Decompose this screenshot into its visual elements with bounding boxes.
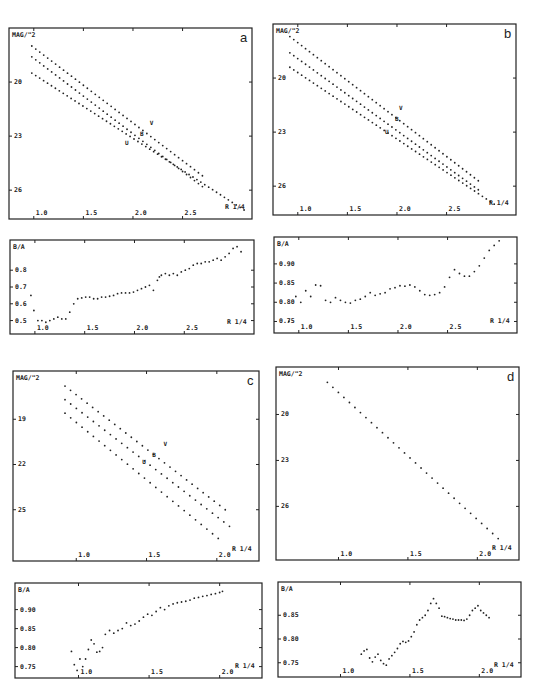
data-point	[189, 599, 191, 601]
data-point	[455, 619, 457, 621]
data-point	[200, 263, 202, 265]
data-point	[480, 610, 482, 612]
data-point	[464, 275, 466, 277]
data-point	[477, 180, 479, 182]
series-V	[289, 66, 495, 205]
data-point	[216, 191, 218, 193]
data-point	[493, 203, 495, 205]
data-point	[426, 141, 428, 143]
data-point	[39, 77, 41, 79]
data-point	[371, 422, 373, 424]
data-point	[82, 666, 84, 668]
data-point	[243, 209, 245, 211]
data-point	[453, 497, 455, 499]
data-point	[126, 118, 128, 120]
data-point	[343, 397, 345, 399]
data-point	[35, 59, 37, 61]
figure-canvas: 1.01.52.02.5202326MAG/"2R 1/4aVBU1.01.52…	[0, 0, 546, 686]
data-point	[384, 292, 386, 294]
data-point	[176, 602, 178, 604]
data-point	[191, 483, 193, 485]
data-point	[472, 610, 474, 612]
data-point	[348, 106, 350, 108]
data-point	[369, 657, 371, 659]
data-point	[442, 169, 444, 171]
data-point	[75, 407, 77, 409]
data-point	[104, 429, 106, 431]
data-point	[81, 398, 83, 400]
data-point	[180, 169, 182, 171]
data-point	[409, 284, 411, 286]
data-point	[438, 607, 440, 609]
data-point	[153, 151, 155, 153]
data-point	[399, 132, 401, 134]
data-point	[130, 131, 132, 133]
data-point	[134, 124, 136, 126]
data-point	[435, 602, 437, 604]
data-point	[154, 139, 156, 141]
data-point	[422, 617, 424, 619]
chart-b-ellipticity: 1.01.52.02.50.750.800.850.90B/AR 1/4	[274, 237, 517, 333]
data-point	[332, 386, 334, 388]
data-point	[149, 464, 151, 466]
data-point	[459, 502, 461, 504]
data-point	[172, 163, 174, 165]
data-point	[371, 99, 373, 101]
data-point	[391, 655, 393, 657]
data-point	[450, 159, 452, 161]
data-point	[35, 75, 37, 77]
data-point	[188, 174, 190, 176]
data-point	[470, 174, 472, 176]
y-tick-label: 26	[281, 502, 289, 510]
data-point	[147, 613, 149, 615]
data-point	[81, 426, 83, 428]
data-point	[73, 303, 75, 305]
band-label-B: B	[395, 115, 399, 122]
data-point	[86, 98, 88, 100]
data-point	[413, 631, 415, 633]
data-point	[463, 620, 465, 622]
data-point	[102, 647, 104, 649]
data-point	[47, 57, 49, 59]
data-point	[345, 301, 347, 303]
data-point	[228, 253, 230, 255]
data-point	[293, 69, 295, 71]
data-point	[170, 151, 172, 153]
x-tick-label: 1.5	[412, 667, 424, 675]
data-point	[371, 112, 373, 114]
band-label-V: V	[163, 440, 167, 447]
data-point	[300, 301, 302, 303]
data-point	[172, 603, 174, 605]
data-point	[376, 427, 378, 429]
data-point	[235, 204, 237, 206]
data-point	[411, 148, 413, 150]
data-point	[469, 614, 471, 616]
data-point	[101, 296, 103, 298]
data-point	[483, 257, 485, 259]
data-point	[156, 279, 158, 281]
data-point	[133, 291, 135, 293]
data-point	[297, 42, 299, 44]
band-label-V: V	[150, 119, 154, 126]
data-point	[180, 271, 182, 273]
data-point	[75, 89, 77, 91]
data-point	[216, 258, 218, 260]
data-point	[87, 649, 89, 651]
data-point	[161, 156, 163, 158]
data-point	[332, 95, 334, 97]
data-point	[166, 496, 168, 498]
data-point	[200, 524, 202, 526]
data-point	[391, 135, 393, 137]
data-point	[446, 156, 448, 158]
y-tick-label: 0.80	[283, 635, 299, 643]
data-point	[438, 166, 440, 168]
data-point	[63, 69, 65, 71]
data-point	[379, 118, 381, 120]
data-point	[149, 284, 151, 286]
data-point	[97, 411, 99, 413]
data-point	[419, 135, 421, 137]
data-point	[437, 482, 439, 484]
data-point	[407, 145, 409, 147]
x-tick-label: 1.0	[81, 668, 93, 676]
x-tick-label: 2.0	[219, 551, 231, 559]
